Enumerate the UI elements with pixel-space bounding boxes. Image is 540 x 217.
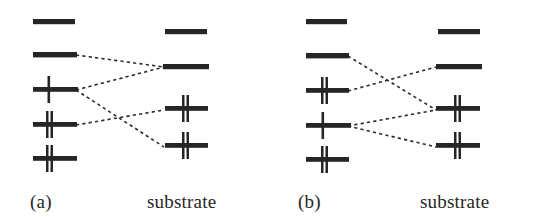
molecule-levels-a [33, 19, 78, 172]
level-a-right-2 [163, 64, 209, 69]
energy-level-diagram-figure: (a) substrate [0, 0, 540, 217]
panel-a-substrate-label: substrate [147, 191, 216, 213]
electron-tick [187, 95, 190, 122]
panel-b: (b) substrate [270, 0, 540, 217]
electron-tick [459, 132, 462, 159]
level-a-right-3 [165, 95, 208, 122]
electron-tick [182, 132, 185, 159]
level-b-right-4 [436, 132, 480, 159]
panel-b-index-label: (b) [298, 191, 321, 213]
level-a-left-2 [33, 52, 77, 57]
link-a-2 [76, 67, 164, 90]
link-a-4 [76, 110, 164, 125]
level-b-left-5 [306, 146, 349, 173]
level-a-right-1 [165, 29, 207, 34]
level-a-left-3 [33, 76, 78, 103]
electron-tick [187, 132, 190, 159]
level-a-left-1 [33, 19, 75, 24]
level-b-left-3 [306, 77, 349, 104]
electron-tick [321, 146, 324, 173]
electron-tick [182, 95, 185, 122]
level-b-left-2 [306, 53, 349, 58]
electron-tick [321, 77, 324, 104]
level-a-left-5 [33, 145, 77, 172]
panel-a-diagram [0, 0, 270, 217]
electron-tick [51, 111, 54, 138]
correlation-lines-group [76, 55, 164, 147]
electron-tick [46, 145, 49, 172]
level-b-right-1 [438, 29, 480, 34]
link-b-2 [348, 67, 436, 91]
panel-a: (a) substrate [0, 0, 270, 217]
electron-tick [48, 76, 51, 103]
panel-a-index-label: (a) [30, 191, 52, 213]
electron-tick [454, 95, 457, 122]
electron-tick [326, 77, 329, 104]
panel-b-diagram [270, 0, 540, 217]
substrate-levels-a [163, 29, 209, 159]
correlation-lines-group [348, 56, 436, 147]
level-b-right-2 [436, 64, 482, 69]
electron-tick [459, 95, 462, 122]
level-a-right-4 [165, 132, 208, 159]
link-a-1 [76, 55, 164, 67]
electron-tick [46, 111, 49, 138]
level-b-right-3 [436, 95, 480, 122]
link-b-3 [348, 110, 436, 126]
molecule-levels-b [306, 19, 351, 173]
substrate-levels-b [436, 29, 482, 159]
electron-tick [454, 132, 457, 159]
electron-tick [326, 146, 329, 173]
link-b-1 [348, 56, 436, 110]
link-a-3 [76, 90, 164, 147]
electron-tick [322, 112, 325, 139]
link-b-4 [348, 126, 436, 147]
level-a-left-4 [33, 111, 77, 138]
panel-b-substrate-label: substrate [420, 191, 489, 213]
electron-tick [51, 145, 54, 172]
level-b-left-4 [306, 112, 351, 139]
level-b-left-1 [306, 19, 347, 24]
